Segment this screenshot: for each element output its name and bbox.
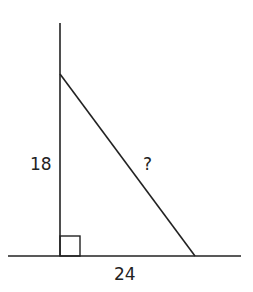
hypotenuse	[60, 74, 195, 256]
hypotenuse-label: ?	[143, 154, 152, 174]
right-angle-marker	[60, 236, 80, 256]
triangle-diagram: 18 ? 24	[0, 0, 253, 292]
horizontal-leg-label: 24	[114, 264, 136, 284]
vertical-leg-label: 18	[30, 154, 52, 174]
